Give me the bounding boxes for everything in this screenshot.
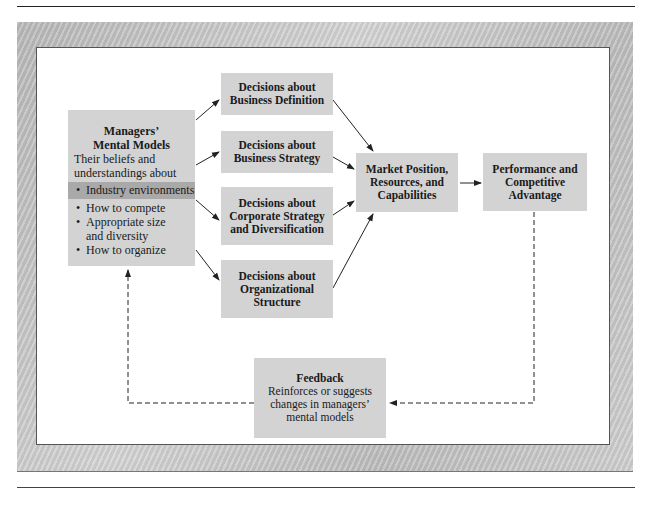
feedback-title: Feedback: [296, 372, 343, 385]
decision-line: Business Strategy: [234, 152, 321, 165]
decision-line: Decisions about: [239, 197, 316, 210]
managers-title-line2: Mental Models: [68, 138, 195, 152]
decision-line: Corporate Strategy: [229, 210, 324, 223]
market-position-box: Market Position, Resources, and Capabili…: [356, 153, 458, 212]
performance-line: Advantage: [508, 189, 561, 202]
bullet-appropriate-size: Appropriate size: [68, 215, 195, 229]
bullet-industry-environments: Industry environments: [68, 182, 195, 199]
managers-desc-line2: understandings about: [68, 166, 195, 180]
decision-organizational-structure-box: Decisions about Organizational Structure: [221, 260, 333, 318]
market-line: Market Position,: [366, 163, 448, 176]
performance-advantage-box: Performance and Competitive Advantage: [483, 153, 587, 211]
decision-line: Business Definition: [230, 94, 324, 107]
feedback-line: Reinforces or suggests: [268, 385, 372, 398]
decision-line: Decisions about: [239, 270, 316, 283]
bullet-how-to-organize: How to organize: [68, 243, 195, 257]
feedback-box: Feedback Reinforces or suggests changes …: [254, 358, 386, 438]
managers-desc-line1: Their beliefs and: [68, 152, 195, 166]
performance-line: Performance and: [492, 163, 577, 176]
managers-bullet-list: Industry environments How to compete App…: [68, 182, 195, 257]
decision-line: and Diversification: [230, 223, 324, 236]
decision-business-strategy-box: Decisions about Business Strategy: [221, 131, 333, 173]
feedback-line: changes in managers’: [270, 398, 370, 411]
decision-line: Decisions about: [239, 81, 316, 94]
bullet-continuation: and diversity: [68, 229, 195, 243]
decision-corporate-strategy-box: Decisions about Corporate Strategy and D…: [221, 187, 333, 245]
bottom-rule: [17, 487, 635, 488]
bullet-how-to-compete: How to compete: [68, 201, 195, 215]
decision-business-definition-box: Decisions about Business Definition: [221, 73, 333, 115]
decision-line: Organizational: [240, 283, 314, 296]
feedback-line: mental models: [286, 411, 353, 424]
managers-mental-models-box: Managers’ Mental Models Their beliefs an…: [68, 110, 195, 266]
managers-title-line1: Managers’: [68, 124, 195, 138]
market-line: Capabilities: [378, 189, 437, 202]
performance-line: Competitive: [505, 176, 565, 189]
decision-line: Structure: [253, 296, 300, 309]
decision-line: Decisions about: [239, 139, 316, 152]
market-line: Resources, and: [370, 176, 444, 189]
